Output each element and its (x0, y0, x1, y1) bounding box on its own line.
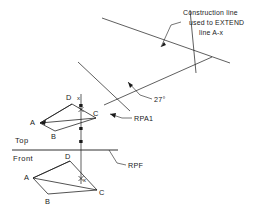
construction-note-line-2: used to EXTEND (189, 19, 244, 26)
drawing-canvas: Construction line used to EXTEND line A-… (0, 0, 261, 215)
front-view-vertex-label-c: C (99, 188, 105, 197)
view-label-top: Top (15, 136, 29, 145)
projection-tick-lower (79, 140, 82, 143)
top-view-vertex-label-a: A (30, 118, 35, 127)
top-view-vertex-label-d: D (66, 93, 71, 102)
angle-label: 27° (154, 95, 166, 104)
rpa1-label: RPA1 (134, 114, 153, 123)
front-view-vertex-label-a: A (24, 173, 29, 182)
front-view-line-d-x (33, 161, 70, 178)
leader-rpf (109, 150, 126, 165)
construction-note-line-1: Construction line (183, 9, 238, 16)
top-view-polygon (40, 104, 96, 131)
front-view-point-x-label: x (83, 177, 86, 183)
technical-drawing: Construction line used to EXTEND line A-… (0, 0, 261, 215)
rpf-label: RPF (128, 161, 143, 170)
leader-arrowhead-angle (128, 82, 133, 88)
projection-tick-upper (79, 104, 82, 107)
top-view-vertex-label-c: C (93, 109, 99, 118)
reference-plane-line-rpa1 (78, 62, 130, 111)
projection-tick-middle (79, 127, 82, 130)
top-view-vertex-label-b: B (51, 132, 56, 141)
leader-arrowhead-construction-note (161, 42, 166, 47)
top-view-point-x-label: x (77, 95, 80, 101)
leader-arrowhead-rpa1 (110, 113, 116, 118)
front-view-vertex-label-d: D (65, 152, 70, 161)
construction-note-line-3: line A-x (199, 29, 224, 36)
top-view-diagonal-d-x (40, 104, 72, 123)
view-label-front: Front (13, 154, 34, 163)
front-view-vertex-label-b: B (45, 197, 50, 206)
front-view-polygon (33, 161, 97, 194)
